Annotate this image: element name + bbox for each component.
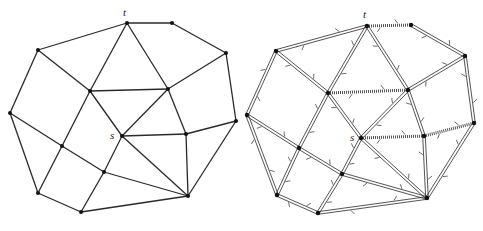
edge-H-K xyxy=(298,92,329,148)
edge-tick xyxy=(261,69,266,70)
edge-G-F xyxy=(38,193,81,212)
node-I xyxy=(406,88,410,92)
node-B xyxy=(463,54,467,58)
edge-t-H xyxy=(327,25,368,93)
edge-tick xyxy=(349,163,354,164)
node-L xyxy=(340,172,344,176)
edge-tick xyxy=(307,203,311,205)
edge-K-F xyxy=(276,147,300,195)
edge-t-A xyxy=(367,19,411,31)
edge-D-H xyxy=(38,50,90,91)
edge-tick xyxy=(341,73,346,74)
edge-tick xyxy=(426,82,427,87)
node-M xyxy=(425,196,429,200)
edge-tick xyxy=(377,139,380,143)
edge-H-I xyxy=(90,89,168,91)
edge-tick xyxy=(422,36,427,38)
edge-L-G xyxy=(81,172,104,212)
label-s-right: s xyxy=(350,132,354,143)
edge-tick xyxy=(285,181,290,182)
edge-K-L xyxy=(298,147,342,175)
edge-F-E xyxy=(246,115,278,196)
edge-tick xyxy=(351,210,355,214)
edge-E-K xyxy=(10,113,62,146)
edge-tick xyxy=(251,140,254,144)
edge-tick xyxy=(406,103,411,105)
edge-G-F xyxy=(276,194,318,214)
edge-tick xyxy=(351,143,353,148)
node-t xyxy=(365,24,369,28)
node-A xyxy=(170,21,174,25)
edge-C-M xyxy=(426,122,475,198)
node-L xyxy=(102,170,106,174)
edge-tick xyxy=(309,132,314,133)
edge-tick xyxy=(270,170,275,171)
edge-J-M xyxy=(186,134,188,196)
node-E xyxy=(8,111,12,115)
edge-s-J xyxy=(122,134,186,136)
node-C xyxy=(472,121,476,125)
edge-tick xyxy=(302,45,304,50)
edge-tick xyxy=(402,131,405,135)
edge-F-E xyxy=(10,113,38,193)
edge-L-M xyxy=(342,173,428,200)
edge-D-t xyxy=(38,23,127,50)
edge-tick xyxy=(335,29,339,32)
edge-H-K xyxy=(62,91,90,146)
edge-tick xyxy=(352,40,354,45)
node-s xyxy=(120,134,124,138)
edge-tick xyxy=(353,119,354,124)
label-t-left: t xyxy=(123,7,126,18)
node-J xyxy=(422,134,426,138)
edge-A-B xyxy=(172,23,226,53)
edge-J-M xyxy=(419,136,432,198)
edge-tick xyxy=(428,176,432,179)
graph-canvas xyxy=(0,0,483,231)
edge-I-B xyxy=(168,53,226,89)
edge-I-J xyxy=(168,89,186,134)
node-E xyxy=(245,113,249,117)
edge-tick xyxy=(400,184,402,189)
edge-tick xyxy=(285,65,290,66)
edge-tick xyxy=(288,157,290,161)
edge-K-F xyxy=(38,146,62,193)
label-s-left: s xyxy=(110,130,114,141)
edge-tick xyxy=(397,65,399,70)
edge-tick xyxy=(456,140,458,145)
edge-t-I xyxy=(366,25,409,90)
edge-tick xyxy=(438,134,440,139)
node-G xyxy=(316,211,320,215)
edge-I-J xyxy=(406,90,425,137)
edge-tick xyxy=(395,19,398,23)
edge-tick xyxy=(331,180,333,185)
edge-B-C xyxy=(461,56,476,123)
label-t-right: t xyxy=(363,9,366,20)
edge-E-D xyxy=(10,50,38,113)
edge-tick xyxy=(392,98,393,103)
edge-D-t xyxy=(276,25,368,53)
edge-tick xyxy=(288,202,289,207)
edge-tick xyxy=(377,28,380,32)
edge-tick xyxy=(455,122,459,125)
node-D xyxy=(274,49,278,53)
node-F xyxy=(36,191,40,195)
edge-tick xyxy=(394,196,396,200)
edge-s-L xyxy=(104,136,122,172)
edge-t-I xyxy=(127,23,168,89)
edge-A-B xyxy=(410,24,465,57)
node-K xyxy=(60,144,64,148)
edge-M-G xyxy=(81,196,188,212)
node-F xyxy=(275,193,279,197)
edge-tick xyxy=(349,94,352,98)
edge-I-s xyxy=(122,89,168,136)
graph-figure: t s t s xyxy=(0,0,483,231)
edge-K-L xyxy=(62,146,104,172)
edge-E-D xyxy=(246,50,277,115)
edge-H-I xyxy=(328,85,408,98)
edge-M-G xyxy=(318,196,427,214)
edge-tick xyxy=(375,157,380,158)
node-M xyxy=(186,194,190,198)
graph-left xyxy=(8,21,238,214)
edge-D-H xyxy=(275,50,329,94)
edge-s-J xyxy=(361,131,424,144)
